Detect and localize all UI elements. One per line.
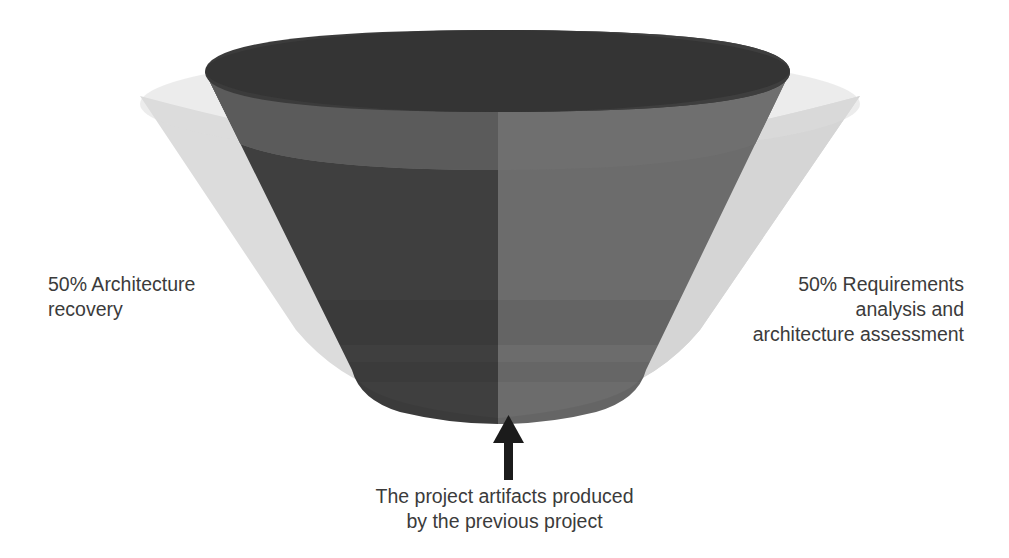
- up-arrow-icon: [493, 415, 524, 480]
- funnel-body: [205, 30, 790, 424]
- label-requirements-analysis: 50% Requirements analysis and architectu…: [634, 272, 964, 347]
- funnel-mouth: [206, 30, 790, 112]
- label-architecture-recovery: 50% Architecture recovery: [48, 272, 348, 322]
- funnel-diagram: 50% Architecture recovery 50% Requiremen…: [0, 0, 1009, 558]
- label-project-artifacts: The project artifacts produced by the pr…: [0, 484, 1009, 534]
